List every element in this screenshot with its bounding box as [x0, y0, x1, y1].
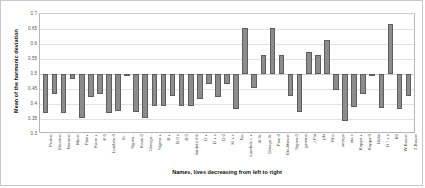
bar[interactable] [161, 74, 167, 106]
bar[interactable] [351, 74, 357, 107]
bar[interactable] [61, 74, 67, 113]
bar[interactable] [261, 55, 267, 75]
x-slot: Delta [369, 134, 378, 168]
bar-slot [86, 14, 95, 132]
bar[interactable] [197, 74, 203, 99]
x-slot: Proton [40, 134, 49, 168]
x-slot: Electron [49, 134, 58, 168]
bar-slot [250, 14, 259, 132]
bar-slot [277, 14, 286, 132]
bar[interactable] [315, 55, 321, 74]
bar[interactable] [333, 74, 339, 90]
bar-slot [159, 14, 168, 132]
bar[interactable] [133, 74, 139, 112]
bar[interactable] [97, 74, 103, 94]
bar[interactable] [70, 74, 76, 79]
bar[interactable] [342, 74, 348, 121]
bar[interactable] [369, 74, 375, 76]
bar[interactable] [106, 74, 112, 113]
x-slot: Neutron [58, 134, 67, 168]
x-slot: Pion+ [77, 134, 86, 168]
bar-slot [295, 14, 304, 132]
bar[interactable] [215, 74, 221, 97]
y-tick-label: 0.6 [31, 41, 37, 46]
x-slot: Kaon + [86, 134, 95, 168]
bar[interactable] [188, 74, 194, 106]
bar[interactable] [360, 74, 366, 94]
bar-slot [241, 14, 250, 132]
y-tick-label: 0.3 [31, 131, 37, 136]
bar-slot [114, 14, 123, 132]
x-slot: Tau [232, 134, 241, 168]
bar[interactable] [270, 28, 276, 74]
bar-slot [377, 14, 386, 132]
bar-slot [232, 14, 241, 132]
plot-area [39, 13, 415, 133]
y-axis-title: Mean of the harmonic deviation [9, 15, 23, 127]
bar[interactable] [206, 74, 212, 84]
x-slot: lambda 0 b [186, 134, 195, 168]
bar-slot [50, 14, 59, 132]
bar[interactable] [52, 74, 58, 94]
bar-series [40, 14, 414, 132]
bar[interactable] [397, 74, 403, 109]
bar-slot [322, 14, 331, 132]
bar[interactable] [115, 74, 121, 111]
x-slot: D * + s [378, 134, 387, 168]
bar[interactable] [388, 24, 394, 74]
x-slot: D + s [204, 134, 213, 168]
bar-slot [395, 14, 404, 132]
bar[interactable] [179, 74, 185, 106]
y-axis-tick-labels: 0.70.650.60.550.50.450.40.350.3 [23, 13, 38, 133]
bar[interactable] [406, 74, 412, 96]
chart-container: Mean of the harmonic deviation 0.70.650.… [0, 0, 423, 186]
y-tick-label: 0.7 [31, 11, 37, 16]
bar-slot [404, 14, 413, 132]
x-slot: Muon [67, 134, 76, 168]
bar-slot [259, 14, 268, 132]
bar[interactable] [88, 74, 94, 97]
bar-slot [68, 14, 77, 132]
bar-slot [386, 14, 395, 132]
bar-slot [177, 14, 186, 132]
x-slot: Omega - [140, 134, 149, 168]
x-slot: Rho [323, 134, 332, 168]
bar[interactable] [43, 74, 49, 113]
bar[interactable] [224, 74, 230, 84]
bar[interactable] [306, 52, 312, 74]
x-slot: Xi - [113, 134, 122, 168]
bar[interactable] [279, 55, 285, 74]
x-axis-title: Names, lives decreasing from left to rig… [39, 169, 415, 175]
x-slot: phi [314, 134, 323, 168]
x-slot: Pion 0 [268, 134, 277, 168]
y-axis-title-label: Mean of the harmonic deviation [13, 29, 19, 113]
bar-slot [132, 14, 141, 132]
bar[interactable] [251, 74, 257, 88]
bar[interactable] [142, 74, 148, 118]
bar-slot [286, 14, 295, 132]
bar-slot [123, 14, 132, 132]
bar[interactable] [152, 74, 158, 106]
x-slot: Eta-Meson [277, 134, 286, 168]
bar-slot [141, 14, 150, 132]
bar-slot [368, 14, 377, 132]
bar-slot [150, 14, 159, 132]
bar[interactable] [124, 74, 130, 76]
bar[interactable] [379, 74, 385, 108]
y-tick-label: 0.35 [28, 116, 37, 121]
bar-slot [204, 14, 213, 132]
bar[interactable] [288, 74, 294, 96]
x-slot: Lambda 0 [104, 134, 113, 168]
x-slot: D 0 [213, 134, 222, 168]
bar-slot [213, 14, 222, 132]
bar[interactable] [297, 74, 303, 112]
bar[interactable] [242, 28, 248, 75]
y-tick-label: 0.45 [28, 86, 37, 91]
bar[interactable] [233, 74, 239, 109]
x-slot: Sigma + [150, 134, 159, 168]
x-slot: K0 [387, 134, 396, 168]
bar[interactable] [79, 74, 85, 118]
x-tick-label: Z-Boson [412, 134, 417, 150]
bar[interactable] [324, 40, 330, 74]
bar[interactable] [170, 74, 176, 96]
